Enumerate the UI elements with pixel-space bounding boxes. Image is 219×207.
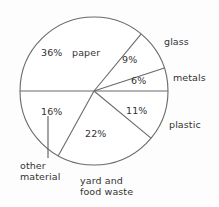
pie-label-yard-category-line1: yard and bbox=[80, 175, 123, 186]
pie-chart-figure: 36% paper 9% 6% 11% 22% 16% glass metals… bbox=[0, 0, 219, 207]
pie-label-yard-category-line2: food waste bbox=[80, 186, 133, 197]
pie-label-paper-category: paper bbox=[72, 47, 100, 58]
pie-label-plastic-percent: 11% bbox=[126, 105, 147, 116]
pie-label-other-percent: 16% bbox=[41, 106, 62, 117]
pie-label-other-category-line1: other bbox=[20, 160, 46, 171]
pie-label-glass-category: glass bbox=[164, 36, 189, 47]
pie-label-metals-percent: 6% bbox=[131, 75, 146, 86]
pie-label-yard-category: yard and food waste bbox=[80, 175, 133, 197]
pie-label-glass-percent: 9% bbox=[122, 54, 137, 65]
pie-label-yard-percent: 22% bbox=[85, 128, 106, 139]
pie-label-paper-percent: 36% bbox=[41, 47, 62, 58]
pie-label-other-category: other material bbox=[20, 160, 60, 182]
pie-label-metals-category: metals bbox=[173, 72, 206, 83]
pie-label-plastic-category: plastic bbox=[169, 119, 201, 130]
pie-label-other-category-line2: material bbox=[20, 171, 60, 182]
